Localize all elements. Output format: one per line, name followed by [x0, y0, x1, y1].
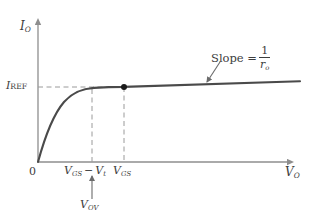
- vov-subscript: OV: [88, 204, 98, 212]
- operating-point-marker: [121, 84, 127, 90]
- fraction-denominator: ro: [259, 59, 270, 72]
- slope-fraction: 1ro: [259, 45, 270, 72]
- x-axis-label: VO: [285, 166, 300, 179]
- slope-text: Slope =: [211, 51, 257, 65]
- x-tick-label-vgs: VGS: [113, 165, 131, 178]
- minus-operator: −: [84, 164, 93, 177]
- figure-container: IO VO IREF 0 VGS−Vt VGS VOV Slope =1ro: [0, 0, 311, 224]
- vov-label: VOV: [80, 199, 98, 212]
- x-tick-label-vgs-minus-vt: VGS−Vt: [64, 165, 106, 178]
- iref-subscript: REF: [10, 82, 27, 91]
- y-tick-label-iref: IREF: [6, 80, 27, 91]
- vt-subscript: t: [103, 170, 106, 178]
- iv-curve: [38, 81, 300, 162]
- plot-canvas: [0, 0, 311, 224]
- x-axis-symbol: V: [285, 165, 294, 179]
- vgsvt-symbol: V: [64, 164, 72, 177]
- vgsvt-subscript: GS: [72, 170, 82, 178]
- y-axis-subscript: O: [25, 25, 31, 34]
- origin-label: 0: [29, 166, 36, 177]
- x-axis-subscript: O: [294, 171, 300, 180]
- y-axis-label: IO: [20, 20, 31, 33]
- vgs-symbol: V: [113, 164, 121, 177]
- fraction-numerator: 1: [259, 45, 270, 56]
- vgs-subscript: GS: [121, 170, 131, 178]
- vov-symbol: V: [80, 198, 88, 211]
- slope-annotation: Slope =1ro: [211, 46, 270, 73]
- ro-subscript: o: [265, 64, 269, 72]
